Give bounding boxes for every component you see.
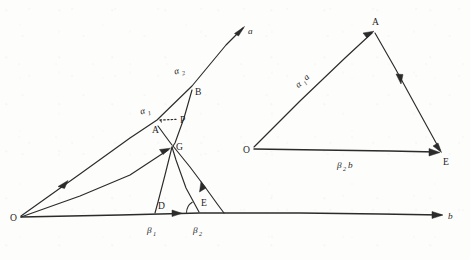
svg-text:1: 1 xyxy=(153,230,156,237)
label-point-A-right: A xyxy=(372,16,379,27)
side-label-beta-2-b: β 2 b xyxy=(336,160,353,172)
svg-text:2: 2 xyxy=(343,165,346,172)
ray-a-line xyxy=(21,27,245,217)
svg-text:α: α xyxy=(173,65,181,76)
svg-text:1: 1 xyxy=(147,109,152,117)
segment-A-G xyxy=(158,126,172,145)
label-point-G: G xyxy=(176,141,183,152)
diagram-page: O D E G A P B α 1 α 2 β 1 β 2 a b xyxy=(0,0,470,260)
angle-label-beta-1: β 1 xyxy=(146,225,156,237)
segment-O-G-direction-marker xyxy=(58,181,68,189)
angle-label-beta-2: β 2 xyxy=(192,225,202,237)
ray-b-direction-marker xyxy=(172,210,182,217)
ray-a-arrowhead xyxy=(235,27,245,37)
geometry-figure: O D E G A P B α 1 α 2 β 1 β 2 a b xyxy=(0,0,470,260)
side-label-alpha-1-a: α 1 a xyxy=(293,72,313,92)
label-point-B: B xyxy=(195,86,201,97)
svg-text:β: β xyxy=(192,225,198,235)
angle-arc-at-E xyxy=(187,202,193,213)
label-point-O-right: O xyxy=(243,144,250,155)
dotted-segment-A-P xyxy=(160,119,176,120)
label-point-D: D xyxy=(158,200,165,211)
angle-label-alpha-2: α 2 xyxy=(173,64,186,78)
segment-O-G xyxy=(21,148,171,217)
label-point-A-left: A xyxy=(152,124,159,135)
label-point-E-right: E xyxy=(443,156,449,167)
ray-b-arrowhead xyxy=(432,212,443,219)
triangle-side-OA xyxy=(254,31,374,147)
svg-text:β: β xyxy=(146,225,152,235)
svg-text:2: 2 xyxy=(181,69,186,77)
label-ray-b: b xyxy=(448,211,453,221)
svg-text:β: β xyxy=(336,160,342,170)
ray-b-line xyxy=(21,210,443,219)
label-point-E-left: E xyxy=(201,197,207,208)
label-point-O-left: O xyxy=(10,212,17,223)
label-ray-a: a xyxy=(248,26,253,36)
svg-text:2: 2 xyxy=(199,230,202,237)
angle-label-alpha-1: α 1 xyxy=(139,104,152,118)
triangle-side-AE-direction-marker xyxy=(396,74,403,84)
label-point-P: P xyxy=(180,114,185,125)
triangle-side-OE xyxy=(254,149,440,157)
segment-E-G-extended xyxy=(172,147,199,212)
segment-O-G-arrowhead xyxy=(160,148,171,154)
svg-text:α: α xyxy=(139,105,147,116)
triangle-side-AE xyxy=(375,33,442,153)
svg-text:b: b xyxy=(348,160,353,170)
segment-G-lower-right xyxy=(173,146,224,213)
